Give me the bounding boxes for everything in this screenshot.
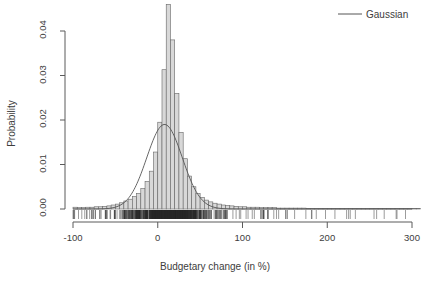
legend-entry-gaussian-label: Gaussian <box>366 9 408 20</box>
histogram-bar <box>132 197 136 209</box>
histogram-bar <box>175 93 179 209</box>
histogram-bar <box>179 132 183 209</box>
x-tick-label: -100 <box>48 232 98 243</box>
histogram-bar <box>128 199 132 209</box>
x-axis <box>73 222 412 228</box>
histogram-bar <box>158 122 162 209</box>
y-tick-label: 0.00 <box>37 190 48 226</box>
x-tick-label: 200 <box>302 232 352 243</box>
histogram-bar <box>170 40 174 209</box>
y-axis-label: Probability <box>6 89 17 159</box>
y-axis <box>60 31 65 209</box>
x-tick-label: 100 <box>218 232 268 243</box>
histogram-bars <box>73 4 420 209</box>
x-tick-label: 300 <box>387 232 432 243</box>
histogram-bar <box>137 193 141 209</box>
histogram-bar <box>149 171 153 209</box>
histogram-bar <box>200 197 204 209</box>
histogram-bar <box>154 152 158 209</box>
gaussian-overlay-curve <box>73 124 412 209</box>
histogram-bar <box>141 189 145 209</box>
y-tick-label: 0.03 <box>37 56 48 92</box>
y-tick-label: 0.04 <box>37 12 48 48</box>
x-axis-label: Budgetary change (in %) <box>160 261 270 272</box>
histogram-bar <box>145 181 149 209</box>
histogram-bar <box>162 70 166 209</box>
histogram-figure: Probability Budgetary change (in %) Gaus… <box>0 0 432 284</box>
x-tick-label: 0 <box>133 232 183 243</box>
rug-plot <box>73 210 405 219</box>
y-tick-label: 0.02 <box>37 101 48 137</box>
histogram-bar <box>166 4 170 209</box>
y-tick-label: 0.01 <box>37 145 48 181</box>
histogram-bar <box>196 193 200 209</box>
